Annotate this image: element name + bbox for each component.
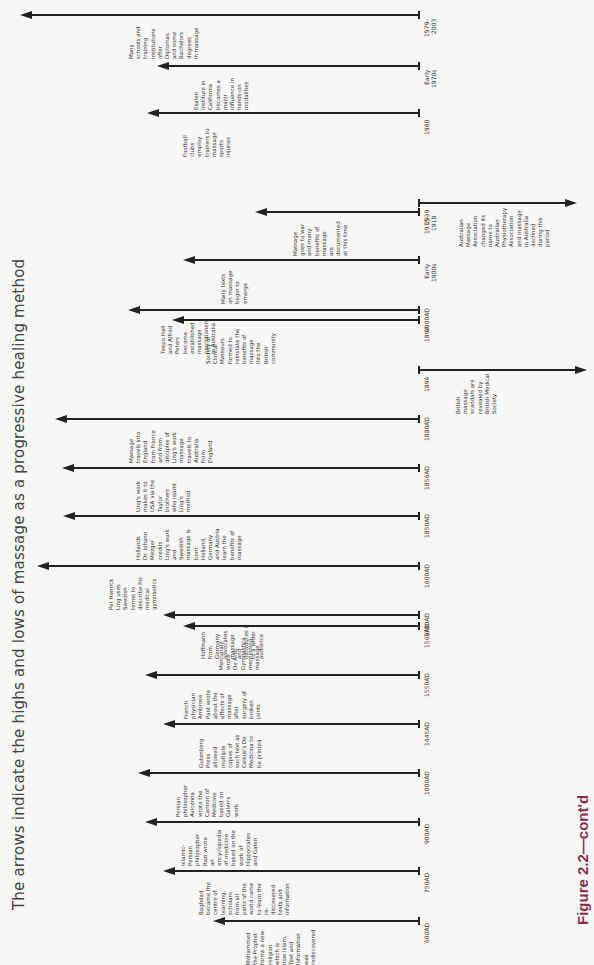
arrow-left-icon xyxy=(183,256,195,264)
arrow-left-icon xyxy=(145,818,157,826)
arrow-left-icon xyxy=(138,769,150,777)
baseline-tick xyxy=(418,199,420,207)
baseline-tick xyxy=(418,917,420,925)
event-description: Persian philosopher Avicenna wrote the C… xyxy=(175,785,240,817)
event-date: 1550AD xyxy=(423,673,430,697)
high-arrow xyxy=(191,625,419,627)
arrow-left-icon xyxy=(255,208,267,216)
event-date: 1960 xyxy=(423,120,430,135)
high-arrow xyxy=(171,870,419,872)
low-arrow xyxy=(419,202,567,204)
arrow-left-icon xyxy=(20,11,32,19)
arrow-left-icon xyxy=(213,917,225,925)
event-date: 1894 xyxy=(423,377,430,392)
arrow-left-icon xyxy=(163,867,175,875)
baseline-tick xyxy=(418,208,420,216)
baseline-tick xyxy=(418,306,420,314)
arrow-left-icon xyxy=(37,562,49,570)
event-date: 900AD xyxy=(423,824,430,844)
baseline-tick xyxy=(418,769,420,777)
low-arrow xyxy=(419,369,577,371)
baseline-tick xyxy=(418,611,420,619)
high-arrow xyxy=(171,723,419,725)
event-description: Baghdad became the centre of learning; s… xyxy=(198,882,292,915)
high-arrow xyxy=(71,515,419,517)
high-arrow xyxy=(180,319,419,321)
event-description: Society of Clinical Masseurs formed to r… xyxy=(205,329,277,364)
event-description: Mohammed the Prophet forms a new religio… xyxy=(245,930,317,965)
baseline-tick xyxy=(418,415,420,423)
high-arrow xyxy=(171,614,419,616)
baseline-tick xyxy=(418,867,420,875)
baseline-tick xyxy=(418,11,420,19)
high-arrow xyxy=(136,309,419,311)
event-description: Esalen Institute in California becomes a… xyxy=(193,78,251,110)
event-date: 1850AD xyxy=(423,514,430,538)
baseline-tick xyxy=(418,562,420,570)
event-description: Many schools and training institutions o… xyxy=(128,26,200,59)
event-date: 1880AD xyxy=(423,417,430,441)
event-date: 1000AD xyxy=(423,771,430,795)
event-description: Massage goes to war and many benefits of… xyxy=(292,221,350,256)
event-description: Massage travels into England from France… xyxy=(128,430,214,463)
baseline-tick xyxy=(418,818,420,826)
arrow-right-icon xyxy=(565,199,577,207)
baseline-tick xyxy=(418,316,420,324)
event-description: Per Henrick Ling uses Swedish terms to d… xyxy=(108,577,158,610)
event-date: 1569AD xyxy=(423,624,430,648)
event-description: Australian Massage Association changed i… xyxy=(458,208,552,247)
high-arrow xyxy=(45,565,419,567)
event-description: British massage scandals are revealed by… xyxy=(455,374,498,414)
arrow-left-icon xyxy=(147,109,159,117)
event-date: 750AD xyxy=(423,873,430,893)
baseline-tick xyxy=(418,512,420,520)
baseline-tick xyxy=(418,671,420,679)
baseline-tick xyxy=(418,62,420,70)
event-description: Islamic- Persian philosopher Razi wrote … xyxy=(180,830,259,866)
high-arrow xyxy=(263,211,419,213)
baseline-tick xyxy=(418,256,420,264)
event-date: 1600AD xyxy=(423,564,430,588)
baseline-tick xyxy=(418,109,420,117)
high-arrow xyxy=(63,418,419,420)
arrow-left-icon xyxy=(163,611,175,619)
high-arrow xyxy=(28,14,419,16)
arrow-left-icon xyxy=(62,464,74,472)
arrow-left-icon xyxy=(163,720,175,728)
arrow-left-icon xyxy=(183,622,195,630)
arrow-left-icon xyxy=(55,415,67,423)
event-date: 1894 xyxy=(423,327,430,342)
baseline-tick xyxy=(418,720,420,728)
arrow-left-icon xyxy=(145,671,157,679)
baseline-tick xyxy=(418,622,420,630)
high-arrow xyxy=(70,467,419,469)
event-description: Hollands Dr. Johann Mezger credits Ling'… xyxy=(135,528,243,560)
event-date: 1915– 1918 xyxy=(423,216,437,234)
event-date: Early 1900s xyxy=(423,264,437,282)
arrow-left-icon xyxy=(128,306,140,314)
high-arrow xyxy=(191,259,419,261)
baseline-tick xyxy=(418,366,420,374)
event-date: 1979– 2003 xyxy=(423,19,437,37)
event-description: Gutenberg Press allowed multiple copies … xyxy=(198,735,263,768)
high-arrow xyxy=(153,821,419,823)
high-arrow xyxy=(146,772,419,774)
figure-label: Figure 2.2—cont'd xyxy=(574,795,591,925)
event-description: Football clubs employ trainers to massag… xyxy=(182,128,232,157)
event-date: 1856AD xyxy=(423,466,430,490)
baseline-tick xyxy=(418,464,420,472)
high-arrow xyxy=(165,65,419,67)
high-arrow xyxy=(155,112,419,114)
event-date: 1445AD xyxy=(423,722,430,746)
arrow-left-icon xyxy=(157,62,169,70)
event-description: Many texts on massage begin to emerge xyxy=(220,271,249,304)
arrow-right-icon xyxy=(575,366,587,374)
event-description: French physician Ambrose Paré wrote abou… xyxy=(183,690,262,719)
high-arrow xyxy=(221,920,419,922)
event-date: Early 1970s xyxy=(423,70,437,88)
high-arrow xyxy=(153,674,419,676)
event-description: Ling's work makes it to USA via the Tayl… xyxy=(135,480,193,512)
event-date: 600AD xyxy=(423,923,430,943)
event-description: Mercuriale wrote De Arte Gymnastica ment… xyxy=(218,637,261,670)
